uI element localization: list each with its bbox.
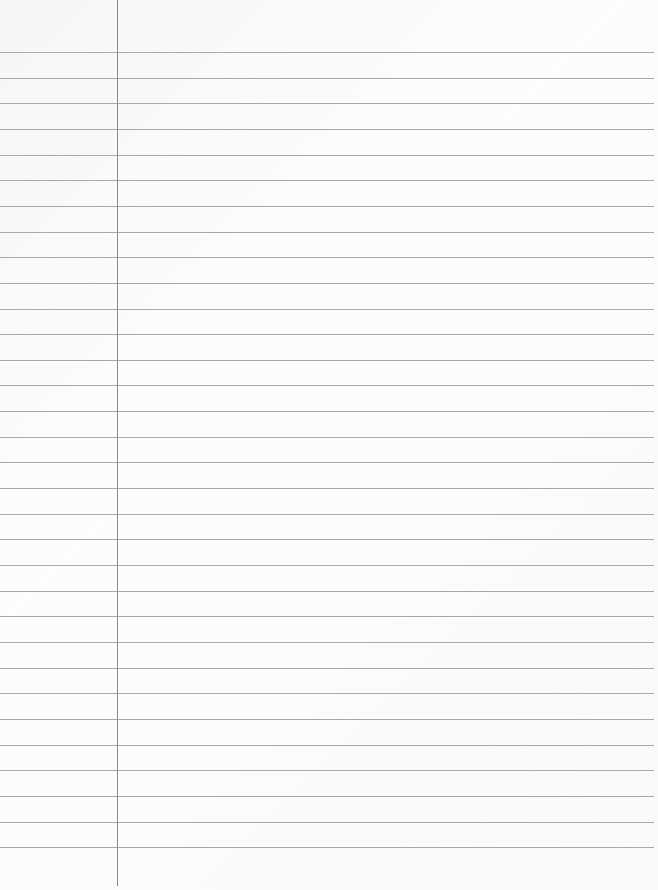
ruled-line — [0, 155, 654, 156]
ruled-line — [0, 668, 654, 669]
ruled-line — [0, 52, 654, 53]
ruled-line — [0, 334, 654, 335]
ruled-line — [0, 103, 654, 104]
ruled-line — [0, 309, 654, 310]
margin-line — [117, 0, 118, 886]
ruled-line — [0, 283, 654, 284]
ruled-line — [0, 745, 654, 746]
ruled-line — [0, 206, 654, 207]
ruled-line — [0, 257, 654, 258]
ruled-line — [0, 642, 654, 643]
ruled-line — [0, 565, 654, 566]
ruled-line — [0, 770, 654, 771]
ruled-line — [0, 437, 654, 438]
ruled-line — [0, 129, 654, 130]
ruled-line — [0, 847, 654, 848]
ruled-line — [0, 822, 654, 823]
ruled-line — [0, 719, 654, 720]
ruled-line — [0, 488, 654, 489]
ruled-line — [0, 616, 654, 617]
ruled-line — [0, 462, 654, 463]
ruled-line — [0, 78, 654, 79]
ruled-line — [0, 796, 654, 797]
ruled-line — [0, 180, 654, 181]
ruled-line — [0, 539, 654, 540]
lined-paper — [0, 0, 658, 890]
ruled-line — [0, 385, 654, 386]
ruled-line — [0, 360, 654, 361]
ruled-line — [0, 693, 654, 694]
ruled-line — [0, 591, 654, 592]
ruled-line — [0, 411, 654, 412]
ruled-line — [0, 232, 654, 233]
ruled-line — [0, 514, 654, 515]
